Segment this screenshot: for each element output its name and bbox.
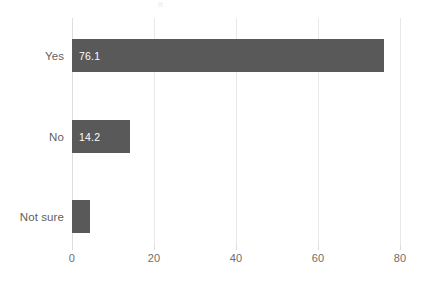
bar-value-label: 14.2 [79,131,100,143]
bar-value-label: 76.1 [79,50,100,62]
plot-area: 76.114.2 [72,18,400,245]
bar-row: 14.2 [72,120,400,153]
tick-mark-0 [72,245,73,250]
x-tick-label-40: 40 [216,252,256,264]
x-tick-label-80: 80 [380,252,420,264]
tick-mark-60 [318,245,319,250]
tick-mark-20 [154,245,155,250]
x-tick-label-60: 60 [298,252,338,264]
bar-no[interactable]: 14.2 [72,120,130,153]
x-tick-label-0: 0 [52,252,92,264]
gridline-80 [400,18,401,245]
bar-row [72,200,400,233]
category-label-not-sure: Not sure [0,211,64,223]
bar-yes[interactable]: 76.1 [72,39,384,72]
tick-mark-40 [236,245,237,250]
chart-top-artifact [158,2,163,7]
category-label-yes: Yes [0,50,64,62]
bar-not-sure[interactable] [72,200,90,233]
tick-mark-80 [400,245,401,250]
x-tick-label-20: 20 [134,252,174,264]
bar-chart: YesNoNot sure 76.114.2 020406080 [0,0,424,286]
category-label-no: No [0,131,64,143]
bar-row: 76.1 [72,39,400,72]
